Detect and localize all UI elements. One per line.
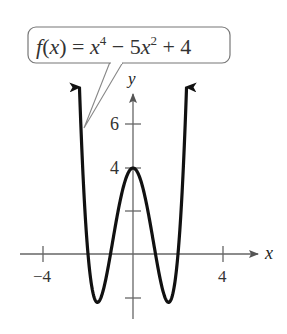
graph-canvas: −4 4 x 6 4 y f(x) = x4 − 5x2 + 4 <box>0 0 287 334</box>
x-tick-label-4: 4 <box>218 267 227 286</box>
x-tick-label-neg4: −4 <box>33 267 52 286</box>
y-axis: 6 4 y <box>110 69 141 319</box>
y-axis-label: y <box>126 69 136 88</box>
y-tick-label-4: 4 <box>110 158 119 178</box>
y-tick-label-6: 6 <box>110 114 119 134</box>
x-axis: −4 4 x <box>20 243 273 286</box>
x-axis-label: x <box>264 243 273 263</box>
function-label: f(x) = x4 − 5x2 + 4 <box>36 33 191 59</box>
